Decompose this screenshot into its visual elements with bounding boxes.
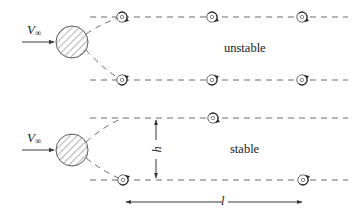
unstable-cylinder <box>56 26 88 58</box>
l-dimension-label: l <box>221 195 224 208</box>
unstable-lower-separation-curve <box>86 50 122 80</box>
vortex-marker <box>118 175 128 185</box>
vortex-marker <box>297 12 307 22</box>
stable-lower-separation-curve <box>86 158 123 180</box>
velocity-label-unstable: V∞ <box>27 23 41 38</box>
vortex-marker <box>117 12 127 22</box>
h-dimension-label: h <box>151 142 164 156</box>
panel-stable <box>22 113 348 185</box>
vortex-marker <box>297 75 307 85</box>
velocity-subscript: ∞ <box>35 136 41 146</box>
stable-cylinder <box>56 134 88 166</box>
panel-unstable <box>22 12 348 85</box>
unstable-upper-separation-curve <box>86 17 122 34</box>
vortex-marker <box>207 12 217 22</box>
vortex-marker <box>117 75 127 85</box>
stable-label: stable <box>230 143 259 156</box>
velocity-label-stable: V∞ <box>27 131 41 146</box>
vortex-street-figure: V∞ V∞ unstable stable h l <box>0 0 352 219</box>
figure-canvas <box>0 0 352 219</box>
vortex-marker <box>298 175 308 185</box>
vortex-marker <box>208 113 218 123</box>
velocity-symbol: V <box>27 130 35 145</box>
stable-upper-separation-curve <box>86 118 123 142</box>
unstable-label: unstable <box>224 42 266 55</box>
vortex-marker <box>207 75 217 85</box>
velocity-subscript: ∞ <box>35 28 41 38</box>
stable-upper-vortices <box>208 113 218 123</box>
velocity-symbol: V <box>27 22 35 37</box>
